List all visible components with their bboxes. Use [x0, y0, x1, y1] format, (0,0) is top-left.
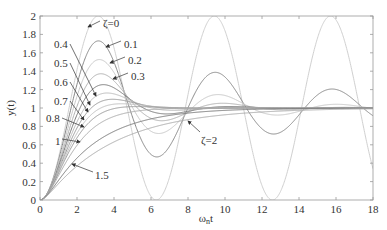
x-tick-label: 16: [331, 203, 343, 215]
step-response-chart: 024681012141618 00.20.40.60.811.21.41.61…: [0, 0, 387, 230]
annotation-2: ζ=2: [188, 121, 217, 147]
y-tick-label: 1.6: [22, 47, 36, 59]
curve-zeta-0-7: [40, 104, 373, 200]
y-tick-label: 0.6: [22, 139, 36, 151]
x-tick-label: 14: [294, 203, 306, 215]
y-tick-label: 0.2: [22, 176, 36, 188]
curve-zeta-0-8: [40, 107, 373, 200]
x-tick-label: 4: [111, 203, 117, 215]
x-tick-label: 6: [148, 203, 154, 215]
x-tick-label: 12: [257, 203, 268, 215]
y-tick-label: 1.4: [22, 65, 36, 77]
x-tick-label: 0: [37, 203, 43, 215]
svg-text:0.2: 0.2: [128, 54, 142, 66]
y-tick-label: 0.8: [22, 120, 36, 132]
y-axis-label: y(t): [4, 100, 17, 116]
arrow-icon: [188, 121, 200, 132]
curve-zeta-0-6: [40, 99, 373, 200]
annotation-1-5: 1.5: [72, 164, 109, 181]
x-tick-label: 2: [74, 203, 80, 215]
x-axis-ticks: 024681012141618: [37, 16, 379, 215]
y-tick-label: 1.2: [22, 84, 36, 96]
svg-text:0.4: 0.4: [54, 38, 68, 50]
svg-text:ζ=0: ζ=0: [103, 17, 120, 30]
y-tick-label: 2: [31, 10, 37, 22]
x-tick-label: 10: [220, 203, 232, 215]
svg-text:0.6: 0.6: [54, 76, 68, 88]
svg-text:1.5: 1.5: [95, 169, 109, 181]
svg-text:0.7: 0.7: [54, 95, 68, 107]
svg-text:0.5: 0.5: [54, 57, 68, 69]
curve-zeta-2: [40, 109, 373, 200]
svg-text:ζ=2: ζ=2: [201, 134, 217, 147]
svg-text:1: 1: [55, 135, 61, 147]
x-tick-label: 18: [368, 203, 380, 215]
x-tick-label: 8: [185, 203, 191, 215]
y-tick-label: 1.8: [22, 28, 36, 40]
svg-text:0.3: 0.3: [131, 70, 145, 82]
svg-text:0.8: 0.8: [46, 112, 60, 124]
y-tick-label: 0: [31, 194, 37, 206]
annotation-0-1: 0.1: [106, 38, 138, 50]
x-axis-label: ωnt: [199, 212, 213, 226]
svg-text:0.1: 0.1: [124, 38, 138, 50]
y-tick-label: 1: [31, 102, 37, 114]
y-tick-label: 0.4: [22, 157, 36, 169]
curve-zeta-0-1: [40, 41, 373, 200]
plot-curves: [40, 16, 373, 200]
annotation-0: ζ=0: [88, 17, 120, 30]
